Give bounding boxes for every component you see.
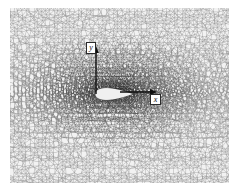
triangular-mesh-canvas [10,8,229,183]
mesh-plot-area [10,8,229,183]
y-axis-label: y [86,42,96,54]
x-axis-label: x [150,94,161,105]
mesh-figure: y x [0,0,238,195]
